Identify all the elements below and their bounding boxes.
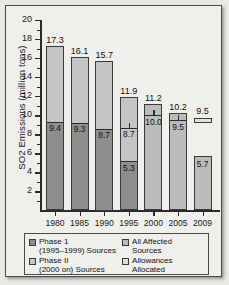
legend-swatch-icon	[122, 258, 129, 265]
legend-label-line2: Allocated	[132, 265, 172, 274]
phase1-value-label: 8.7	[96, 130, 112, 140]
bar-segment-phase1	[96, 129, 112, 210]
y-tick-label: 14	[8, 71, 32, 81]
legend-label-line2: (2000 on) Sources	[39, 265, 105, 274]
legend-label: Phase 1(1995–1999) Sources	[39, 237, 116, 256]
y-tick-minor	[37, 163, 41, 164]
y-tick-minor	[37, 49, 41, 50]
bar-segment-phase2	[47, 47, 63, 122]
y-tick-label: 4	[8, 166, 32, 176]
y-tick-minor	[37, 125, 41, 126]
y-tick-major	[35, 134, 41, 135]
legend-label-line1: All Affected	[132, 237, 172, 246]
chart-frame: SO2 Emissions (million tons) 20181614121…	[5, 5, 222, 277]
bar-1985: 9.3	[71, 57, 89, 210]
bar-total-label-2000: 11.2	[136, 93, 170, 103]
legend-label-line1: Phase 1	[39, 237, 116, 246]
y-tick-major	[35, 172, 41, 173]
allowances-value-label-1995: 8.7	[120, 129, 138, 139]
chart-legend: Phase 1(1995–1999) SourcesAll AffectedSo…	[24, 233, 209, 275]
bar-1995: 5.3	[120, 97, 138, 210]
y-tick-major	[35, 96, 41, 97]
legend-label: AllowancesAllocated	[132, 256, 172, 275]
y-tick-major	[35, 115, 41, 116]
legend-item[interactable]: Phase 1(1995–1999) Sources	[29, 237, 122, 256]
legend-label-line1: Allowances	[132, 256, 172, 265]
legend-label: Phase II(2000 on) Sources	[39, 256, 105, 275]
bar-segment-phase1	[47, 122, 63, 210]
legend-swatch-icon	[29, 258, 36, 265]
y-tick-label: 10	[8, 109, 32, 119]
y-tick-major	[35, 191, 41, 192]
legend-swatch-icon	[29, 239, 36, 246]
phase1-value-label: 9.3	[72, 124, 88, 134]
legend-item[interactable]: Phase II(2000 on) Sources	[29, 256, 122, 275]
x-tick	[178, 211, 179, 216]
allowances-whisker-2005	[178, 115, 179, 120]
y-tick-minor	[37, 106, 41, 107]
y-tick-minor	[37, 68, 41, 69]
y-tick-label: 6	[8, 147, 32, 157]
bar-1990: 8.7	[95, 61, 113, 211]
legend-item[interactable]: All AffectedSources	[122, 237, 208, 256]
y-tick-label: 16	[8, 52, 32, 62]
y-tick-minor	[37, 182, 41, 183]
x-tick-label: 2009	[188, 218, 218, 228]
allowances-value-label: 9.5	[186, 106, 220, 116]
bar-segment-phase1	[72, 123, 88, 210]
y-tick-major	[35, 77, 41, 78]
allowances-whisker-2000	[153, 110, 154, 115]
figure-canvas: SO2 Emissions (million tons) 20181614121…	[0, 0, 229, 285]
allowances-value-label-2000: 10.0	[144, 117, 162, 127]
y-tick-minor	[37, 87, 41, 88]
x-tick	[55, 211, 56, 216]
allowances-value-label-2005: 9.5	[169, 122, 187, 132]
x-tick	[80, 211, 81, 216]
x-tick	[203, 211, 204, 216]
legend-label-line1: Phase II	[39, 256, 105, 265]
bar-1980: 9.4	[46, 46, 64, 211]
bar-2009: 5.7	[194, 156, 212, 210]
y-tick-label: 2	[8, 185, 32, 195]
y-tick-major	[35, 20, 41, 21]
legend-label: All AffectedSources	[132, 237, 172, 256]
legend-label-line2: (1995–1999) Sources	[39, 246, 116, 255]
x-tick	[153, 211, 154, 216]
y-tick-minor	[37, 30, 41, 31]
bar-segment-phase2	[96, 62, 112, 129]
y-tick-major	[35, 153, 41, 154]
bar-total-label-2009: 5.7	[195, 159, 211, 169]
x-tick	[129, 211, 130, 216]
y-tick-label: 12	[8, 90, 32, 100]
y-tick-label: 20	[8, 14, 32, 24]
legend-swatch-icon	[122, 239, 129, 246]
bar-total-label-1990: 15.7	[87, 50, 121, 60]
allowances-whisker-1995	[129, 123, 130, 128]
legend-item[interactable]: AllowancesAllocated	[122, 256, 208, 275]
phase1-value-label: 9.4	[47, 123, 63, 133]
legend-label-line2: Sources	[132, 246, 172, 255]
y-tick-minor	[37, 144, 41, 145]
bar-total-label-1980: 17.3	[38, 35, 72, 45]
y-tick-label: 8	[8, 128, 32, 138]
allowances-marker-2009	[194, 118, 212, 123]
bar-segment-phase2	[72, 58, 88, 123]
x-tick	[104, 211, 105, 216]
y-tick-minor	[37, 201, 41, 202]
phase1-value-label: 5.3	[121, 163, 137, 173]
y-tick-label: 18	[8, 33, 32, 43]
y-tick-major	[35, 58, 41, 59]
